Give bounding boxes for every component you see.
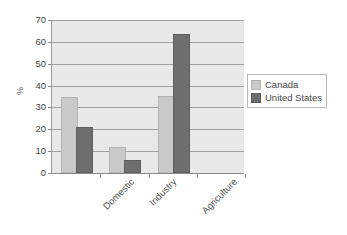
y-axis-tick-label: 60	[22, 37, 46, 47]
gridline	[52, 86, 244, 87]
bar-agriculture-united-states[interactable]	[173, 34, 190, 173]
x-axis-label-agriculture: Agriculture	[199, 176, 239, 216]
y-axis-tick-label: 40	[22, 81, 46, 91]
chart-legend[interactable]: CanadaUnited States	[247, 74, 327, 108]
y-axis-tick-labels: 706050403020100	[22, 14, 46, 174]
legend-item-united-states[interactable]: United States	[251, 91, 322, 104]
y-axis-tick-label: 10	[22, 146, 46, 156]
legend-label: United States	[265, 92, 322, 103]
legend-swatch-icon	[251, 80, 261, 90]
y-axis-tick-label: 0	[22, 168, 46, 178]
y-axis-tick-label: 50	[22, 59, 46, 69]
x-axis-category-labels: DomesticIndustryAgriculture	[51, 176, 243, 234]
bar-chart: % 706050403020100 DomesticIndustryAgricu…	[0, 0, 347, 235]
bar-domestic-united-states[interactable]	[76, 127, 93, 173]
gridline	[52, 20, 244, 21]
y-axis-tick-mark	[48, 129, 52, 130]
legend-item-canada[interactable]: Canada	[251, 78, 322, 91]
y-axis-tick-mark	[48, 20, 52, 21]
legend-label: Canada	[265, 79, 298, 90]
y-axis-tick-label: 30	[22, 102, 46, 112]
y-axis-tick-label: 70	[22, 15, 46, 25]
bar-industry-united-states[interactable]	[124, 160, 141, 173]
gridline	[52, 42, 244, 43]
y-axis-tick-mark	[48, 42, 52, 43]
x-axis-label-industry: Industry	[147, 176, 179, 208]
x-axis-tick-mark	[245, 174, 246, 178]
y-axis-tick-mark	[48, 151, 52, 152]
y-axis-tick-mark	[48, 64, 52, 65]
y-axis-tick-mark	[48, 107, 52, 108]
plot-area	[51, 20, 244, 173]
y-axis-tick-label: 20	[22, 124, 46, 134]
gridline	[52, 64, 244, 65]
y-axis-tick-mark	[48, 86, 52, 87]
gridline	[52, 107, 244, 108]
legend-swatch-icon	[251, 93, 261, 103]
y-axis-tick-mark	[48, 173, 52, 174]
x-axis-label-domestic: Domestic	[101, 176, 137, 212]
